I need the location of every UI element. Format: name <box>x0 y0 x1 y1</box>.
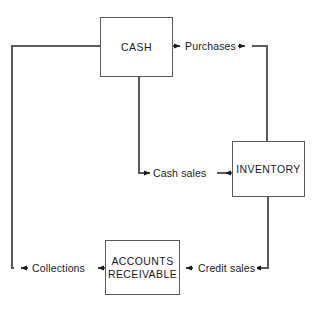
node-accounts-receivable-label: ACCOUNTS RECEIVABLE <box>108 255 177 280</box>
node-cash[interactable]: CASH <box>100 17 173 77</box>
node-cash-label: CASH <box>121 41 152 53</box>
edge-label-collections: Collections <box>30 262 87 275</box>
edge-label-credit-sales: Credit sales <box>196 262 257 275</box>
cash-flow-diagram: CASH INVENTORY ACCOUNTS RECEIVABLE Purch… <box>0 0 319 314</box>
edge-label-purchases: Purchases <box>183 40 238 53</box>
node-accounts-receivable[interactable]: ACCOUNTS RECEIVABLE <box>105 240 180 295</box>
edge-label-cash-sales: Cash sales <box>151 167 208 180</box>
edge-collections-to-cash <box>12 46 100 268</box>
edge-cash-down-to-cashsales <box>139 77 143 173</box>
edge-purchases-to-inventory <box>252 46 267 141</box>
node-inventory-label: INVENTORY <box>236 163 300 175</box>
edge-inventory-down-to-creditsales <box>262 197 268 268</box>
node-inventory[interactable]: INVENTORY <box>232 141 305 197</box>
